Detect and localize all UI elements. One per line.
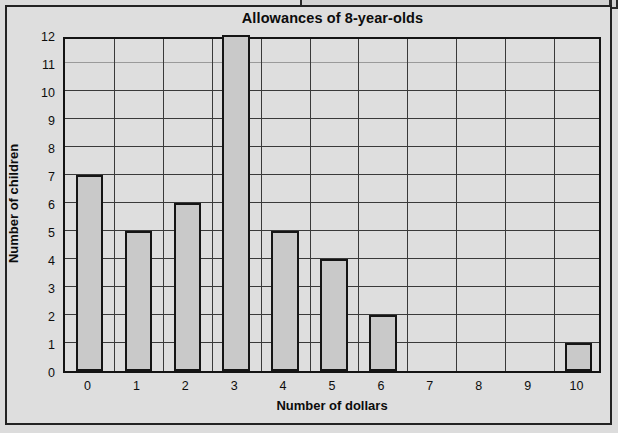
y-axis-tick-label: 11 bbox=[21, 59, 55, 71]
y-axis-tick-label: 12 bbox=[21, 31, 55, 43]
gridline bbox=[65, 118, 599, 119]
x-axis-tick-label: 5 bbox=[310, 379, 354, 393]
gridline bbox=[65, 202, 599, 203]
bar bbox=[369, 315, 396, 371]
y-axis-tick-label: 1 bbox=[21, 339, 55, 351]
gridline bbox=[65, 90, 599, 91]
bar bbox=[271, 231, 298, 371]
bar bbox=[174, 203, 201, 371]
category-separator bbox=[456, 39, 457, 371]
gridline bbox=[65, 174, 599, 175]
category-separator bbox=[505, 39, 506, 371]
bar bbox=[222, 35, 249, 371]
category-separator bbox=[114, 39, 115, 371]
y-axis-tick-label: 6 bbox=[21, 199, 55, 211]
y-axis-tick-label: 10 bbox=[21, 87, 55, 99]
scanned-page: Allowances of 8-year-olds Number of chil… bbox=[0, 0, 618, 433]
y-axis-tick-label: 2 bbox=[21, 311, 55, 323]
y-axis-tick-label: 8 bbox=[21, 143, 55, 155]
x-axis-tick-label: 6 bbox=[359, 379, 403, 393]
x-axis-tick-label: 7 bbox=[408, 379, 452, 393]
y-axis-tick-label: 3 bbox=[21, 283, 55, 295]
category-separator bbox=[310, 39, 311, 371]
x-axis-tick-label: 0 bbox=[65, 379, 109, 393]
x-axis-tick-label: 2 bbox=[163, 379, 207, 393]
category-separator bbox=[358, 39, 359, 371]
bar bbox=[76, 175, 103, 371]
category-separator bbox=[261, 39, 262, 371]
category-separator bbox=[554, 39, 555, 371]
category-separator bbox=[163, 39, 164, 371]
x-axis-tick-label: 9 bbox=[506, 379, 550, 393]
bar bbox=[125, 231, 152, 371]
y-axis-tick-label: 7 bbox=[21, 171, 55, 183]
x-axis-tick-label: 8 bbox=[457, 379, 501, 393]
y-axis-tick-label: 4 bbox=[21, 255, 55, 267]
bar bbox=[565, 343, 592, 371]
y-axis-title: Number of children bbox=[6, 109, 21, 299]
y-axis-tick-label: 0 bbox=[21, 367, 55, 379]
x-axis-tick-label: 10 bbox=[555, 379, 599, 393]
gridline bbox=[65, 146, 599, 147]
category-separator bbox=[212, 39, 213, 371]
x-axis-title: Number of dollars bbox=[63, 398, 601, 413]
bar bbox=[320, 259, 347, 371]
x-axis-tick-label: 4 bbox=[261, 379, 305, 393]
x-axis-tick-label: 3 bbox=[212, 379, 256, 393]
x-axis-tick-label: 1 bbox=[114, 379, 158, 393]
y-axis-tick-label: 9 bbox=[21, 115, 55, 127]
chart-title: Allowances of 8-year-olds bbox=[60, 10, 605, 26]
gridline bbox=[65, 62, 599, 63]
plot-area bbox=[63, 37, 601, 373]
y-axis-tick-label: 5 bbox=[21, 227, 55, 239]
category-separator bbox=[407, 39, 408, 371]
